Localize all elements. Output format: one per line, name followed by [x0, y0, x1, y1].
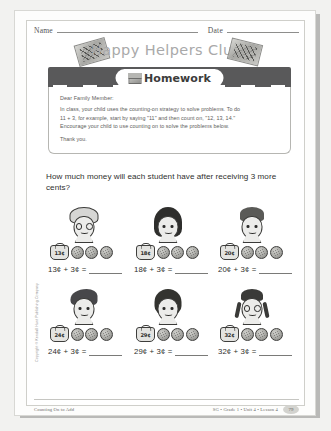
- money-group: 13¢: [50, 245, 113, 260]
- eye: [163, 307, 166, 310]
- eye: [79, 307, 82, 310]
- face: [153, 289, 183, 325]
- coin-purse-icon: 29¢: [136, 327, 155, 342]
- answer-blank[interactable]: [89, 347, 122, 356]
- answer-blank[interactable]: [175, 265, 208, 274]
- homework-book-icon: [128, 73, 141, 84]
- coin-purse-icon: 18¢: [136, 245, 155, 260]
- answer-blank[interactable]: [259, 265, 292, 274]
- student-portrait: [220, 283, 284, 325]
- homework-pill: Homework: [115, 69, 224, 87]
- penny-icon: [241, 328, 254, 341]
- student-portrait: [52, 283, 116, 325]
- paper-sheet: Name Date Happy Helpers Club Homework: [14, 10, 316, 416]
- eye: [171, 307, 174, 310]
- money-group: 24¢: [50, 327, 113, 342]
- mouth: [164, 312, 172, 316]
- eye: [171, 225, 174, 228]
- homework-banner: Homework: [48, 67, 291, 89]
- penny-icon: [241, 246, 254, 259]
- student-portrait: [136, 283, 200, 325]
- date-write-line[interactable]: [227, 31, 299, 33]
- answer-blank[interactable]: [89, 265, 122, 274]
- penny-icon: [157, 328, 170, 341]
- student-portrait: [136, 201, 200, 243]
- face: [153, 207, 183, 243]
- penny-icon: [157, 246, 170, 259]
- page-number: 79: [283, 405, 299, 414]
- name-date-row: Name Date: [34, 23, 299, 35]
- equation-1: 13¢ + 3¢ =: [48, 265, 122, 274]
- eye: [255, 225, 258, 228]
- penny-icon: [255, 328, 268, 341]
- face: [69, 289, 99, 325]
- equation-6: 32¢ + 3¢ =: [218, 347, 292, 356]
- penny-icon: [186, 328, 199, 341]
- penny-icon: [71, 328, 84, 341]
- problem-cell: 13¢ 13¢ + 3¢ =: [48, 201, 130, 284]
- date-label: Date: [208, 26, 223, 35]
- face: [237, 207, 267, 243]
- mouth: [80, 312, 88, 316]
- coin-purse-icon: 13¢: [50, 245, 69, 260]
- purse-amount: 13¢: [54, 250, 64, 256]
- footer: Counting On to Add SG • Grade 1 • Unit 4…: [34, 403, 299, 415]
- equation-4: 24¢ + 3¢ =: [48, 347, 122, 356]
- equation-5: 29¢ + 3¢ =: [134, 347, 208, 356]
- family-note-box: Dear Family Member: In class, your child…: [48, 87, 291, 154]
- penny-icon: [171, 246, 184, 259]
- problem-cell: 18¢ 18¢ + 3¢ =: [134, 201, 216, 284]
- penny-icon: [71, 246, 84, 259]
- eye: [247, 225, 250, 228]
- footer-divider: [34, 399, 299, 400]
- penny-icon: [85, 328, 98, 341]
- mouth: [164, 230, 172, 234]
- footer-lesson-title: Counting On to Add: [34, 407, 74, 412]
- penny-icon: [255, 246, 268, 259]
- mouth: [248, 230, 256, 234]
- mouth: [248, 312, 256, 316]
- coin-purse-icon: 20¢: [220, 245, 239, 260]
- note-line-2: 11 + 3, for example, start by saying "11…: [60, 115, 279, 122]
- braid: [262, 302, 269, 318]
- footer-meta: SG • Grade 1 • Unit 4 • Lesson 4: [213, 407, 278, 412]
- note-greeting: Dear Family Member:: [60, 95, 279, 101]
- equation-expression: 29¢ + 3¢ =: [134, 347, 172, 356]
- worksheet-page: Name Date Happy Helpers Club Homework: [0, 0, 331, 431]
- problem-row-1: 13¢ 13¢ + 3¢ =: [46, 201, 301, 284]
- student-portrait: [52, 201, 116, 243]
- purse-amount: 18¢: [140, 250, 150, 256]
- note-closing: Thank you.: [60, 136, 279, 142]
- problem-cell: 24¢ 24¢ + 3¢ =: [48, 283, 130, 366]
- note-line-1: In class, your child uses the counting-o…: [60, 106, 279, 113]
- side-copyright: Copyright © Kendall Hunt Publishing Comp…: [35, 283, 39, 362]
- note-body: In class, your child uses the counting-o…: [60, 106, 279, 131]
- problem-cell: 32¢ 32¢ + 3¢ =: [218, 283, 300, 366]
- money-group: 29¢: [136, 327, 199, 342]
- student-portrait: [220, 201, 284, 243]
- answer-blank[interactable]: [259, 347, 292, 356]
- name-write-line[interactable]: [57, 31, 198, 33]
- money-group: 20¢: [220, 245, 283, 260]
- title-row: Happy Helpers Club: [34, 38, 299, 68]
- stamp-scribble: [233, 43, 258, 62]
- eye: [163, 225, 166, 228]
- equation-expression: 18¢ + 3¢ =: [134, 265, 172, 274]
- penny-icon: [270, 246, 283, 259]
- answer-blank[interactable]: [175, 347, 208, 356]
- equation-expression: 20¢ + 3¢ =: [218, 265, 256, 274]
- problem-cell: 20¢ 20¢ + 3¢ =: [218, 201, 300, 284]
- footer-right-group: SG • Grade 1 • Unit 4 • Lesson 4 79: [213, 405, 299, 414]
- question-text: How much money will each student have af…: [46, 171, 296, 193]
- penny-icon: [186, 246, 199, 259]
- purse-amount: 29¢: [140, 332, 150, 338]
- note-line-3: Encourage your child to use counting on …: [60, 123, 279, 130]
- problem-row-2: 24¢ 24¢ + 3¢ =: [46, 283, 301, 366]
- homework-label: Homework: [144, 72, 211, 85]
- face: [69, 207, 99, 243]
- equation-expression: 24¢ + 3¢ =: [48, 347, 86, 356]
- penny-icon: [85, 246, 98, 259]
- penny-icon: [270, 328, 283, 341]
- penny-icon: [100, 246, 113, 259]
- purse-amount: 20¢: [224, 250, 234, 256]
